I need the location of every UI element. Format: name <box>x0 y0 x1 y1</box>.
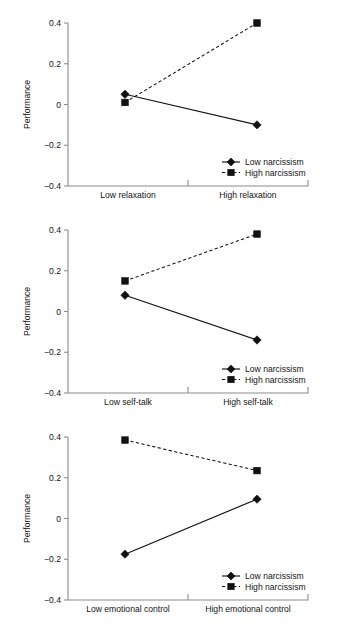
y-tick-label-4: −0.4 <box>44 388 61 398</box>
legend-label-1: High narcissism <box>245 168 306 178</box>
y-tick-label-0: 0.4 <box>49 18 61 28</box>
series-line-low-narcissism <box>125 94 257 125</box>
legend-label-0: Low narcissism <box>245 157 304 167</box>
marker-square-1-0 <box>122 278 129 285</box>
series-line-high-narcissism <box>125 234 257 281</box>
y-axis-label: Performance <box>22 80 32 129</box>
y-tick-label-1: 0.2 <box>49 59 61 69</box>
y-tick-label-1: 0.2 <box>49 473 61 483</box>
legend-marker-diamond <box>227 158 235 166</box>
chart-svg-0: 0.40.20−0.2−0.4PerformanceLow relaxation… <box>0 0 344 205</box>
marker-diamond-0-1 <box>253 336 261 344</box>
y-axis-label: Performance <box>22 287 32 336</box>
marker-square-1-1 <box>254 20 261 27</box>
y-tick-label-0: 0.4 <box>49 225 61 235</box>
y-axis-label: Performance <box>22 494 32 543</box>
legend-marker-square <box>228 169 234 175</box>
y-tick-label-1: 0.2 <box>49 266 61 276</box>
legend-label-1: High narcissism <box>245 582 306 592</box>
y-tick-label-2: 0 <box>56 307 61 317</box>
y-tick-label-3: −0.2 <box>44 140 61 150</box>
chart-svg-2: 0.40.20−0.2−0.4PerformanceLow emotional … <box>0 414 344 619</box>
marker-square-1-1 <box>254 467 261 474</box>
marker-square-1-1 <box>254 231 261 238</box>
legend-marker-square <box>228 583 234 589</box>
x-category-label-1: High relaxation <box>219 190 277 200</box>
y-tick-label-3: −0.2 <box>44 554 61 564</box>
series-line-high-narcissism <box>125 440 257 471</box>
y-tick-label-4: −0.4 <box>44 181 61 191</box>
legend-label-0: Low narcissism <box>245 571 304 581</box>
chart-panel-self-talk: 0.40.20−0.2−0.4PerformanceLow self-talkH… <box>0 207 344 412</box>
y-tick-label-3: −0.2 <box>44 347 61 357</box>
marker-square-1-0 <box>122 437 129 444</box>
series-line-high-narcissism <box>125 23 257 102</box>
legend-label-1: High narcissism <box>245 375 306 385</box>
x-category-label-1: High emotional control <box>205 604 291 614</box>
chart-svg-1: 0.40.20−0.2−0.4PerformanceLow self-talkH… <box>0 207 344 412</box>
marker-diamond-0-1 <box>253 495 261 503</box>
interaction-plots-figure: 0.40.20−0.2−0.4PerformanceLow relaxation… <box>0 0 344 631</box>
x-category-label-1: High self-talk <box>223 397 273 407</box>
y-tick-label-2: 0 <box>56 514 61 524</box>
x-category-label-0: Low relaxation <box>100 190 156 200</box>
y-tick-label-0: 0.4 <box>49 432 61 442</box>
x-category-label-0: Low emotional control <box>86 604 170 614</box>
marker-diamond-0-0 <box>121 550 129 558</box>
chart-panel-relaxation: 0.40.20−0.2−0.4PerformanceLow relaxation… <box>0 0 344 205</box>
x-category-label-0: Low self-talk <box>104 397 152 407</box>
series-line-low-narcissism <box>125 295 257 340</box>
marker-diamond-0-0 <box>121 90 129 98</box>
chart-panel-emotional-control: 0.40.20−0.2−0.4PerformanceLow emotional … <box>0 414 344 619</box>
legend-marker-diamond <box>227 572 235 580</box>
legend-label-0: Low narcissism <box>245 364 304 374</box>
y-tick-label-2: 0 <box>56 100 61 110</box>
y-tick-label-4: −0.4 <box>44 595 61 605</box>
marker-square-1-0 <box>122 99 129 106</box>
marker-diamond-0-0 <box>121 291 129 299</box>
series-line-low-narcissism <box>125 499 257 554</box>
marker-diamond-0-1 <box>253 121 261 129</box>
legend-marker-square <box>228 376 234 382</box>
legend-marker-diamond <box>227 365 235 373</box>
